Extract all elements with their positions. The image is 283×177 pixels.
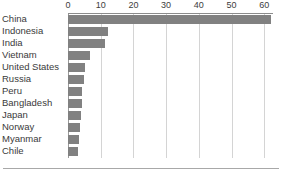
bar-track — [68, 26, 279, 38]
bar-chart-figure: 0102030405060 ChinaIndonesiaIndiaVietnam… — [0, 0, 283, 177]
bar — [68, 123, 80, 132]
bar-track — [68, 74, 279, 86]
x-axis-tick-labels: 0102030405060 — [68, 0, 279, 14]
x-axis-tick-label: 20 — [128, 0, 138, 11]
bar — [68, 75, 84, 84]
bar — [68, 111, 81, 120]
category-label: Russia — [2, 73, 64, 85]
bar-rows: ChinaIndonesiaIndiaVietnamUnited StatesR… — [0, 14, 283, 158]
category-label: China — [2, 13, 64, 25]
category-label: United States — [2, 61, 64, 73]
bar-track — [68, 86, 279, 98]
x-axis-tick-label: 40 — [194, 0, 204, 11]
bar — [68, 15, 271, 24]
x-axis-tick-label: 30 — [161, 0, 171, 11]
bar-track — [68, 110, 279, 122]
bar-track — [68, 98, 279, 110]
bar — [68, 87, 82, 96]
bar — [68, 27, 108, 36]
bar — [68, 39, 105, 48]
bar — [68, 63, 85, 72]
bar-track — [68, 14, 279, 26]
bar — [68, 147, 78, 156]
category-label: Myanmar — [2, 133, 64, 145]
bar-track — [68, 50, 279, 62]
category-label: Vietnam — [2, 49, 64, 61]
bar-track — [68, 38, 279, 50]
category-label: Bangladesh — [2, 97, 64, 109]
category-label: Indonesia — [2, 25, 64, 37]
footer-divider — [3, 168, 279, 169]
category-label: Peru — [2, 85, 64, 97]
bar — [68, 51, 90, 60]
bar-track — [68, 122, 279, 134]
category-label: India — [2, 37, 64, 49]
x-axis-tick-label: 60 — [259, 0, 269, 11]
x-axis-tick-label: 50 — [227, 0, 237, 11]
x-axis-tick-label: 10 — [96, 0, 106, 11]
category-label: Norway — [2, 121, 64, 133]
bar — [68, 99, 82, 108]
bar-track — [68, 146, 279, 158]
bar — [68, 135, 79, 144]
bar-row: Chile — [0, 146, 283, 158]
x-axis-tick-label: 0 — [65, 0, 70, 11]
category-label: Chile — [2, 145, 64, 157]
category-label: Japan — [2, 109, 64, 121]
bar-track — [68, 62, 279, 74]
bar-track — [68, 134, 279, 146]
